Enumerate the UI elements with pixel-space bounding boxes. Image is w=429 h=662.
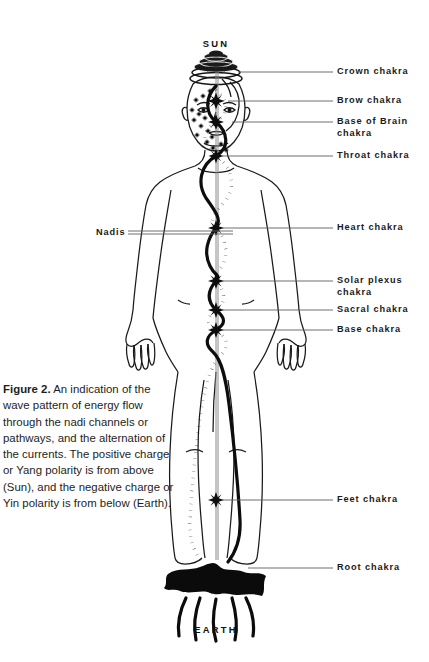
label-base-of-brain-chakra: Base of Brain chakra [337, 116, 429, 139]
label-brow-chakra: Brow chakra [337, 95, 402, 107]
label-base-chakra: Base chakra [337, 324, 401, 336]
sun-label: SUN [183, 38, 249, 49]
figure-caption: Figure 2. An indication of the wave patt… [3, 381, 179, 511]
label-solar-plexus-chakra: Solar plexus chakra [337, 275, 429, 298]
earth-label: EARTH [183, 624, 249, 635]
label-crown-chakra: Crown chakra [337, 66, 409, 78]
label-sacral-chakra: Sacral chakra [337, 304, 408, 316]
label-throat-chakra: Throat chakra [337, 150, 409, 162]
figure-2-chakra-diagram: SUN EARTH Nadis Crown chakra Brow chakra… [0, 0, 429, 662]
label-root-chakra: Root chakra [337, 562, 400, 574]
label-nadis: Nadis [96, 227, 126, 239]
label-feet-chakra: Feet chakra [337, 494, 398, 506]
figure-caption-lead: Figure 2. [3, 383, 51, 395]
figure-caption-body: An indication of the wave pattern of ene… [3, 383, 173, 509]
label-heart-chakra: Heart chakra [337, 222, 403, 234]
